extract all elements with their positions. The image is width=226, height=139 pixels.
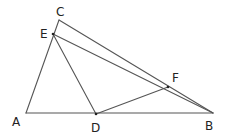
label-b: B xyxy=(205,119,213,133)
geometry-diagram: A B C D E F xyxy=(0,0,226,139)
label-f: F xyxy=(172,71,179,85)
segment-ed xyxy=(53,34,96,114)
label-e: E xyxy=(40,27,48,41)
label-c: C xyxy=(56,5,64,19)
vertices xyxy=(52,33,170,116)
vertex-labels: A B C D E F xyxy=(12,5,213,135)
point-d xyxy=(95,113,98,116)
segment-df xyxy=(96,87,168,114)
point-f xyxy=(167,86,170,89)
segment-eb xyxy=(53,34,213,113)
point-e xyxy=(52,33,55,36)
label-d: D xyxy=(91,121,100,135)
label-a: A xyxy=(12,115,21,129)
